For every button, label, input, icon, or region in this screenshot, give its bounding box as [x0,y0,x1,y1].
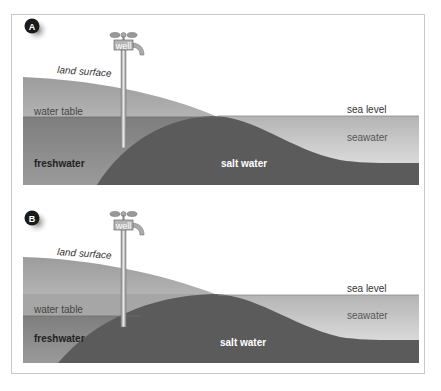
sea-level-label: sea level [347,283,386,294]
freshwater-label: freshwater [34,158,85,169]
freshwater-label: freshwater [34,333,85,344]
badge-letter: A [29,22,36,32]
saltwater-intrusion-diagram: A well land surface water table sea leve… [0,0,441,391]
panel-b: B well land surface water table sea leve… [23,210,419,363]
water-table-label: water table [33,304,83,315]
salt-water-label: salt water [220,337,266,348]
well-label: well [115,221,132,231]
water-table-label: water table [33,106,83,117]
badge-letter: B [29,214,36,224]
panel-a: A well land surface water table sea leve… [23,18,419,185]
sea-level-label: sea level [347,104,386,115]
land-surface-label: land surface [57,64,113,79]
well-label: well [115,41,132,51]
seawater-label: seawater [347,310,388,321]
land-surface-label: land surface [57,246,113,261]
salt-water-label: salt water [221,158,267,169]
seawater-label: seawater [347,132,388,143]
land-region [23,257,218,295]
